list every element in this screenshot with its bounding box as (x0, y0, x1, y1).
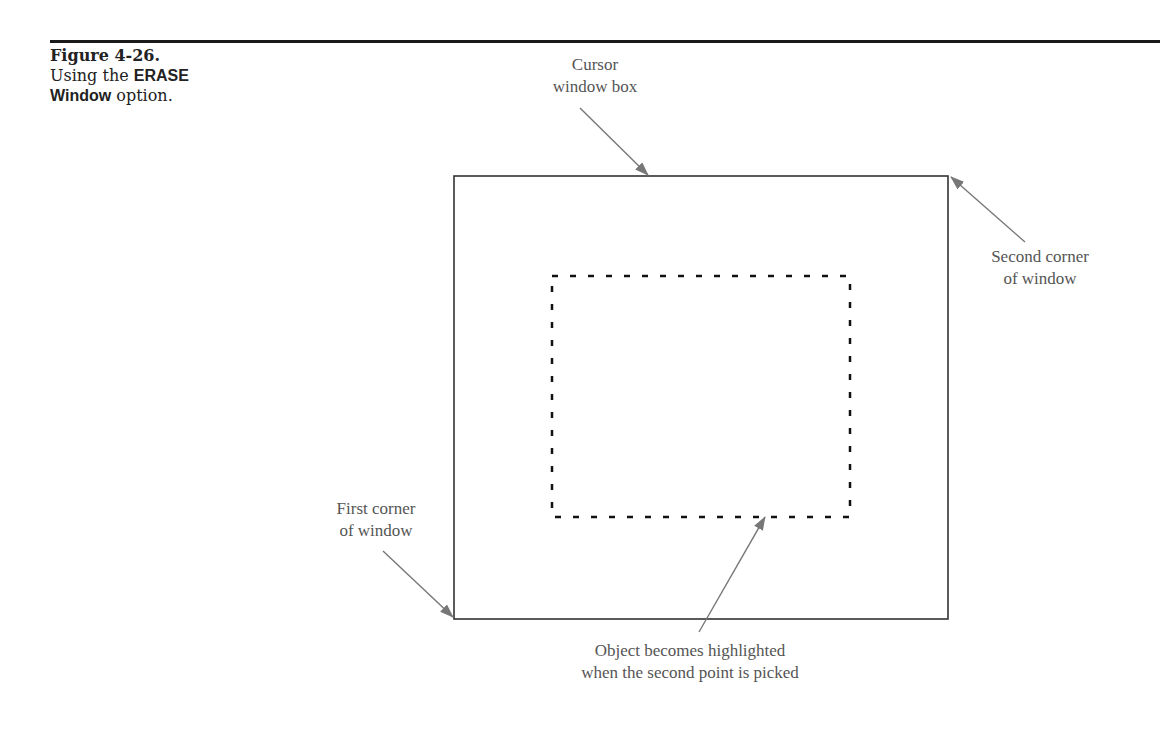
arrow-first-corner (383, 551, 453, 617)
label-line: Object becomes highlighted (520, 640, 860, 662)
label-line: of window (306, 520, 446, 542)
arrow-second-corner (951, 177, 1025, 242)
label-cursor-window-box: Cursor window box (520, 54, 670, 98)
label-line: of window (960, 268, 1120, 290)
label-line: Second corner (960, 246, 1120, 268)
label-first-corner: First corner of window (306, 498, 446, 542)
cursor-window-box (454, 176, 948, 619)
label-line: when the second point is picked (520, 662, 860, 684)
arrow-object (699, 517, 765, 632)
arrow-cursor-box (580, 108, 648, 175)
label-line: Cursor (520, 54, 670, 76)
label-line: First corner (306, 498, 446, 520)
label-object-highlighted: Object becomes highlighted when the seco… (520, 640, 860, 684)
erase-window-diagram (0, 0, 1160, 733)
label-second-corner: Second corner of window (960, 246, 1120, 290)
highlighted-object (552, 276, 850, 517)
label-line: window box (520, 76, 670, 98)
